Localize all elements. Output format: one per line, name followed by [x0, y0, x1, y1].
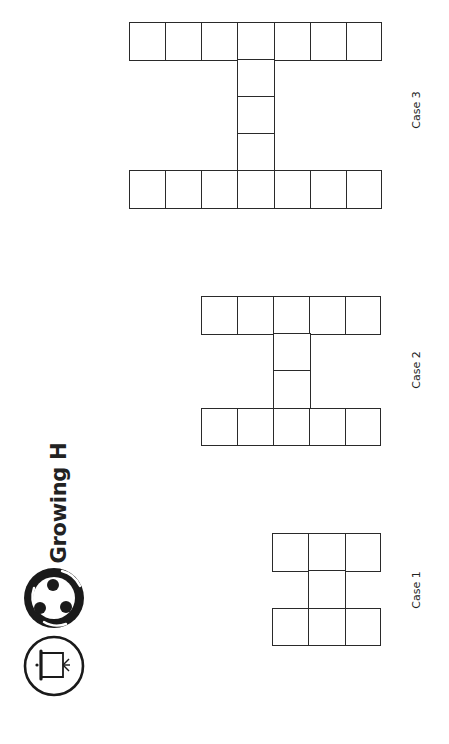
- square: [237, 133, 275, 172]
- square: [309, 408, 347, 446]
- square: [273, 370, 311, 410]
- square: [165, 170, 203, 209]
- square: [273, 333, 311, 372]
- square: [237, 96, 275, 135]
- square: [308, 608, 346, 646]
- square: [201, 296, 239, 335]
- case-3-label: Case 3: [410, 91, 423, 128]
- case-2-figure: [201, 296, 381, 446]
- square: [272, 608, 310, 646]
- square: [345, 533, 381, 572]
- square: [310, 170, 348, 209]
- square: [129, 22, 167, 61]
- square: [273, 408, 311, 446]
- square: [345, 296, 381, 335]
- square: [346, 22, 382, 61]
- worksheet-page: Growing H: [0, 0, 449, 744]
- square: [237, 22, 275, 61]
- square: [308, 533, 346, 572]
- square: [237, 296, 275, 335]
- collaboration-icon: [22, 566, 86, 630]
- square: [129, 170, 167, 209]
- square: [201, 22, 239, 61]
- square: [309, 296, 347, 335]
- square: [274, 22, 312, 61]
- square: [310, 22, 348, 61]
- square: [345, 408, 381, 446]
- square: [165, 22, 203, 61]
- square: [201, 170, 239, 209]
- page-title: Growing H: [47, 443, 71, 564]
- square: [345, 608, 381, 646]
- presentation-icon: [22, 634, 86, 698]
- square: [237, 170, 275, 209]
- case-1-figure: [272, 533, 381, 646]
- square: [274, 170, 312, 209]
- square: [346, 170, 382, 209]
- case-3-figure: [129, 22, 382, 209]
- case-1-label: Case 1: [410, 571, 423, 608]
- square: [237, 59, 275, 98]
- square: [272, 533, 310, 572]
- square: [201, 408, 239, 446]
- square: [308, 570, 346, 610]
- square: [273, 296, 311, 335]
- square: [237, 408, 275, 446]
- case-2-label: Case 2: [410, 351, 423, 388]
